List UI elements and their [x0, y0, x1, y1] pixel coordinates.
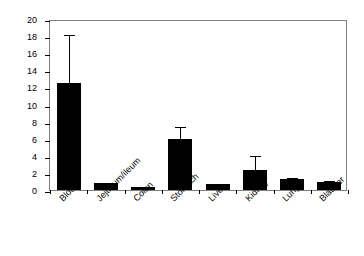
- y-tick-mark: [45, 107, 50, 108]
- error-bar-cap: [175, 127, 186, 128]
- y-tick-label: 6: [1, 136, 41, 145]
- y-tick-mark: [45, 89, 50, 90]
- error-bar-cap: [287, 178, 298, 179]
- error-bar-cap: [250, 156, 261, 157]
- x-tick-mark: [274, 190, 275, 194]
- y-tick-label: 20: [1, 16, 41, 25]
- y-tick-label: 12: [1, 84, 41, 93]
- x-tick-mark: [311, 190, 312, 194]
- x-tick-mark: [236, 190, 237, 194]
- error-bar-line: [69, 35, 70, 85]
- y-tick-mark: [45, 72, 50, 73]
- y-tick-mark: [45, 141, 50, 142]
- x-tick-mark: [50, 190, 51, 194]
- y-tick-label: 0: [1, 187, 41, 196]
- y-tick-mark: [45, 158, 50, 159]
- error-bar-line: [255, 156, 256, 172]
- y-tick-mark: [45, 38, 50, 39]
- x-tick-mark: [199, 190, 200, 194]
- y-tick-label: 4: [1, 153, 41, 162]
- y-tick-label: 18: [1, 33, 41, 42]
- y-tick-mark: [45, 175, 50, 176]
- y-tick-label: 2: [1, 170, 41, 179]
- plot-area: 02468101214161820: [49, 20, 347, 191]
- x-tick-mark: [348, 190, 349, 194]
- x-tick-mark: [87, 190, 88, 194]
- y-tick-label: 8: [1, 119, 41, 128]
- y-tick-mark: [45, 55, 50, 56]
- y-tick-mark: [45, 124, 50, 125]
- bar: [57, 83, 81, 190]
- y-tick-label: 14: [1, 67, 41, 76]
- x-tick-mark: [125, 190, 126, 194]
- x-tick-mark: [162, 190, 163, 194]
- bar-chart-figure: % Specific radioactivity 024681012141618…: [0, 0, 364, 256]
- error-bar-line: [180, 127, 181, 141]
- y-tick-label: 10: [1, 102, 41, 111]
- error-bar-cap: [64, 35, 75, 36]
- y-tick-mark: [45, 21, 50, 22]
- y-tick-label: 16: [1, 50, 41, 59]
